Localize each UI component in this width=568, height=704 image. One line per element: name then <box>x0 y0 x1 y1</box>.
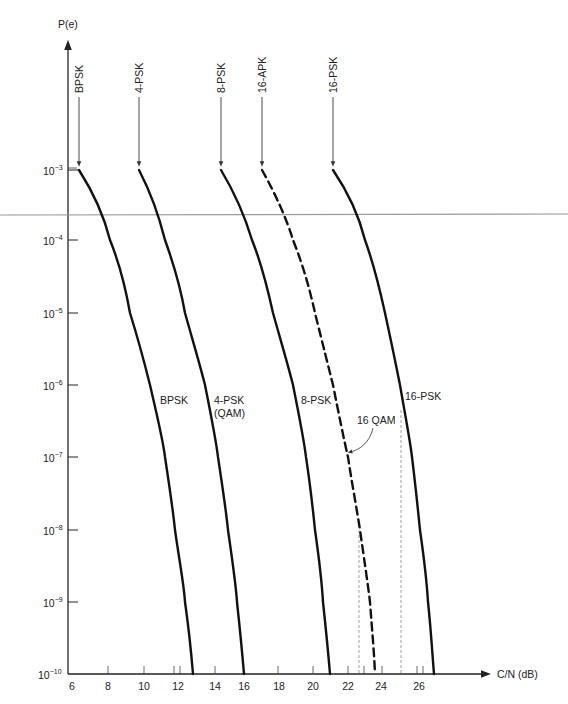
top-label-bpsk: BPSK <box>73 65 85 93</box>
x-axis: C/N (dB) <box>68 668 538 680</box>
overlay-horizontal-line <box>0 214 568 215</box>
curve-bpsk <box>79 170 193 674</box>
curve-label-bpsk: BPSK <box>160 394 188 406</box>
y-axis: P(e) <box>58 18 78 674</box>
svg-text:22: 22 <box>342 680 354 692</box>
top-label-16apk: 16-APK <box>256 57 268 93</box>
curve-label-16qam: 16 QAM <box>357 414 396 426</box>
svg-text:10−10: 10−10 <box>38 668 62 681</box>
curve-label-8psk: 8-PSK <box>301 394 331 406</box>
svg-text:8: 8 <box>105 680 111 692</box>
top-arrows <box>79 97 333 164</box>
svg-text:10−3: 10−3 <box>43 164 63 177</box>
curve-label-16psk: 16-PSK <box>405 390 441 402</box>
svg-text:18: 18 <box>273 680 285 692</box>
svg-text:10−9: 10−9 <box>43 596 63 609</box>
svg-text:26: 26 <box>413 680 425 692</box>
svg-text:10−5: 10−5 <box>43 307 63 320</box>
x-tick-labels: 6 8 10 12 14 16 18 20 22 24 26 <box>69 680 425 692</box>
y-tick-labels: 10−3 10−4 10−5 10−6 10−7 10−8 10−9 10−10 <box>38 164 63 681</box>
curve-label-4psk-2: (QAM) <box>214 407 245 419</box>
x-axis-title: C/N (dB) <box>497 668 538 680</box>
curve-4psk <box>139 170 244 674</box>
qam16-leader-arrow <box>350 428 373 452</box>
y-axis-title: P(e) <box>58 18 78 30</box>
svg-text:10−4: 10−4 <box>43 234 63 247</box>
svg-text:10−8: 10−8 <box>43 524 63 537</box>
svg-text:20: 20 <box>307 680 319 692</box>
ber-chart: P(e) C/N (dB) 10−3 10−4 10−5 10−6 10−7 1… <box>0 0 568 704</box>
top-label-8psk: 8-PSK <box>215 63 227 93</box>
top-label-4psk: 4-PSK <box>133 63 145 93</box>
svg-text:16: 16 <box>238 680 250 692</box>
svg-text:10−6: 10−6 <box>43 379 63 392</box>
top-label-16psk: 16-PSK <box>327 57 339 93</box>
svg-text:24: 24 <box>375 680 387 692</box>
svg-text:10−7: 10−7 <box>43 451 63 464</box>
guide-lines <box>359 410 401 673</box>
y-ticks <box>68 170 78 602</box>
svg-text:12: 12 <box>172 680 184 692</box>
svg-text:14: 14 <box>209 680 221 692</box>
top-labels: BPSK 4-PSK 8-PSK 16-APK 16-PSK <box>73 57 339 93</box>
svg-text:10: 10 <box>138 680 150 692</box>
curve-label-4psk-1: 4-PSK <box>214 394 244 406</box>
svg-text:6: 6 <box>69 680 75 692</box>
